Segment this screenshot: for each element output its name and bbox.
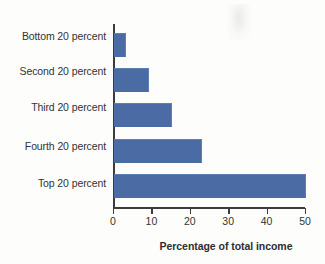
bars-group <box>114 24 306 207</box>
x-tick-label: 50 <box>290 215 320 227</box>
bar-row <box>114 33 126 57</box>
x-tick-label: 40 <box>252 215 282 227</box>
x-tick-mark <box>190 208 191 214</box>
bar-row <box>114 103 172 127</box>
x-tick-mark <box>305 208 306 214</box>
bar-third-20-percent <box>114 103 172 127</box>
category-label: Second 20 percent <box>0 59 106 83</box>
bar-fourth-20-percent <box>114 139 202 163</box>
bar-top-20-percent <box>114 174 306 198</box>
category-label: Bottom 20 percent <box>0 24 106 48</box>
x-axis-ticks: 0 10 20 30 40 50 <box>113 208 306 234</box>
x-tick-mark <box>113 208 114 214</box>
x-tick-mark <box>228 208 229 214</box>
bar-row <box>114 139 202 163</box>
category-label: Third 20 percent <box>0 95 106 119</box>
bar-row <box>114 174 306 198</box>
category-label: Top 20 percent <box>0 171 106 195</box>
bar-second-20-percent <box>114 68 149 92</box>
x-tick-mark <box>151 208 152 214</box>
x-tick-label: 30 <box>213 215 243 227</box>
bar-bottom-20-percent <box>114 33 126 57</box>
x-tick-label: 10 <box>136 215 166 227</box>
x-tick-mark <box>267 208 268 214</box>
income-distribution-bar-chart: Bottom 20 percent Second 20 percent Thir… <box>0 0 325 264</box>
x-tick-label: 20 <box>175 215 205 227</box>
x-axis-title: Percentage of total income <box>133 240 319 252</box>
bar-row <box>114 68 149 92</box>
category-axis-labels: Bottom 20 percent Second 20 percent Thir… <box>0 24 106 207</box>
category-label: Fourth 20 percent <box>0 134 106 158</box>
x-tick-label: 0 <box>98 215 128 227</box>
